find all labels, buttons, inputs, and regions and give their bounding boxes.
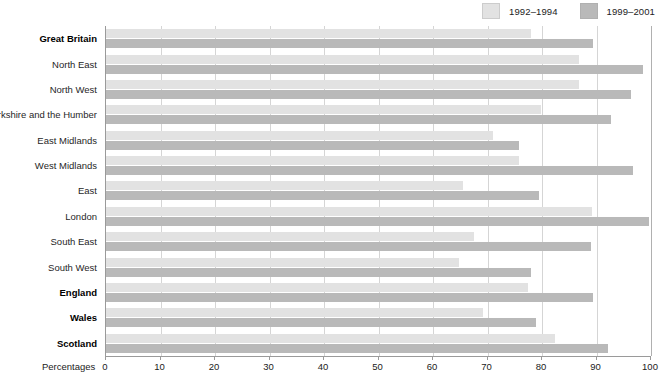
bar-series1 [106,131,493,140]
category-label: England [0,280,101,305]
legend-swatch-1992-1994 [482,3,500,19]
bar-row [106,229,651,254]
bar-row [106,128,651,153]
category-label: East [0,178,101,203]
category-label: London [0,204,101,229]
bar-series1 [106,258,459,267]
x-tick-label-50: 50 [372,361,383,372]
bar-series2 [106,318,536,327]
category-label: Great Britain [0,26,101,51]
x-tick-mark-60 [432,357,433,360]
category-label: Wales [0,305,101,330]
category-label: South West [0,254,101,279]
bar-row [106,305,651,330]
x-tick-mark-50 [378,357,379,360]
x-tick-label-30: 30 [263,361,274,372]
category-label: North West [0,77,101,102]
x-axis-title: Percentages [42,361,95,372]
bar-row [106,280,651,305]
bar-series1 [106,207,592,216]
category-axis-labels: Great BritainNorth EastNorth WestYorkshi… [0,26,101,356]
x-axis-ticks: 0102030405060708090100 [105,357,650,373]
legend-label-1992-1994: 1992–1994 [509,6,557,17]
bar-row [106,51,651,76]
bar-series1 [106,308,483,317]
bar-series1 [106,283,528,292]
bar-series1 [106,181,463,190]
x-tick-label-10: 10 [154,361,165,372]
bar-row [106,331,651,356]
bar-series2 [106,242,591,251]
plot-area [105,26,651,357]
bar-series2 [106,268,531,277]
bar-row [106,178,651,203]
x-tick-label-20: 20 [209,361,220,372]
x-tick-mark-70 [487,357,488,360]
x-tick-mark-10 [160,357,161,360]
x-tick-label-100: 100 [642,361,658,372]
category-label: South East [0,229,101,254]
bar-row [106,77,651,102]
bar-series2 [106,344,608,353]
bar-series2 [106,293,593,302]
x-tick-label-40: 40 [318,361,329,372]
bar-series2 [106,90,631,99]
legend-swatch-1999-2001 [580,3,598,19]
bar-series2 [106,141,519,150]
bar-series1 [106,334,555,343]
x-tick-mark-100 [650,357,651,360]
bar-series2 [106,166,633,175]
chart-legend: 1992–1994 1999–2001 [482,3,655,19]
bar-series1 [106,80,579,89]
category-label: Yorkshire and the Humber [0,102,101,127]
bar-series1 [106,156,519,165]
x-tick-mark-30 [269,357,270,360]
bar-series1 [106,105,541,114]
category-label: North East [0,51,101,76]
x-tick-label-0: 0 [102,361,107,372]
category-label: East Midlands [0,128,101,153]
bar-row [106,26,651,51]
bar-series1 [106,232,474,241]
bar-rows [106,26,651,356]
x-tick-mark-90 [596,357,597,360]
bar-row [106,102,651,127]
x-tick-mark-40 [323,357,324,360]
x-tick-label-80: 80 [536,361,547,372]
x-tick-label-90: 90 [590,361,601,372]
x-tick-label-60: 60 [427,361,438,372]
bar-chart: 1992–1994 1999–2001 Great BritainNorth E… [0,0,665,388]
x-tick-mark-80 [541,357,542,360]
legend-entry-1992-1994: 1992–1994 [482,3,557,19]
legend-label-1999-2001: 1999–2001 [607,6,655,17]
x-tick-mark-20 [214,357,215,360]
legend-entry-1999-2001: 1999–2001 [580,3,655,19]
bar-row [106,254,651,279]
x-tick-mark-0 [105,357,106,360]
category-label: Scotland [0,331,101,356]
bar-series2 [106,115,611,124]
gridline-100 [651,26,652,356]
bar-row [106,204,651,229]
bar-row [106,153,651,178]
bar-series2 [106,65,643,74]
bar-series1 [106,29,531,38]
x-tick-label-70: 70 [481,361,492,372]
bar-series2 [106,39,593,48]
bar-series1 [106,55,579,64]
bar-series2 [106,191,539,200]
category-label: West Midlands [0,153,101,178]
bar-series2 [106,217,649,226]
